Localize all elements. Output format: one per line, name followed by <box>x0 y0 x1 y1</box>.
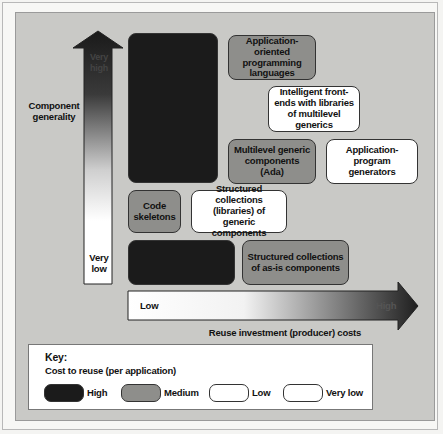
box-high-cost-tall <box>128 33 218 183</box>
box-application-oriented-languages: Application-oriented programming languag… <box>228 35 316 80</box>
legend-swatch-high <box>44 384 84 402</box>
box-structured-generic-collections: Structured collections (libraries) of ge… <box>191 190 287 233</box>
y-axis-title: Component generality <box>28 100 80 123</box>
legend-subtitle: Cost to reuse (per application) <box>45 365 176 376</box>
box-code-skeletons: Code skeletons <box>128 190 181 233</box>
y-axis-top-label: Very high <box>86 52 112 74</box>
x-axis-title: Reuse investment (producer) costs <box>205 327 365 338</box>
legend-label-medium: Medium <box>164 387 199 398</box>
box-high-cost-bottom <box>128 240 235 285</box>
y-axis-bottom-label: Very low <box>86 252 112 275</box>
x-axis-right-label: High <box>376 300 396 311</box>
box-application-program-generators: Application-program generators <box>326 139 418 184</box>
legend-title: Key: <box>45 351 67 363</box>
legend-swatch-very-low <box>283 384 323 402</box>
box-intelligent-front-ends: Intelligent front-ends with libraries of… <box>268 86 360 132</box>
box-multilevel-generic-components: Multilevel generic components (Ada) <box>228 139 316 184</box>
legend-label-very-low: Very low <box>326 387 363 398</box>
legend-swatch-low <box>209 384 249 402</box>
legend-key: Key: Cost to reuse (per application) Hig… <box>28 344 373 410</box>
legend-label-low: Low <box>252 387 270 398</box>
legend-swatch-medium <box>121 384 161 402</box>
legend-label-high: High <box>87 387 107 398</box>
box-structured-as-is-collections: Structured collections of as-is componen… <box>242 240 349 285</box>
x-axis-left-label: Low <box>140 300 158 311</box>
